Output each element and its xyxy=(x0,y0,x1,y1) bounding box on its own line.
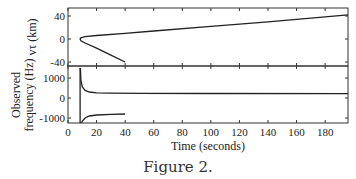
y-tick-label: 0 xyxy=(60,92,66,104)
x-tick-label: 80 xyxy=(177,126,189,138)
x-tick-label: 0 xyxy=(65,126,71,138)
y-tick-label: -40 xyxy=(50,56,65,68)
x-tick-label: 100 xyxy=(203,126,220,138)
panel-bottom: -100001000020406080100120140160180Time (… xyxy=(39,66,348,153)
series-line xyxy=(80,15,348,62)
figure-chart: -40040-100001000020406080100120140160180… xyxy=(0,0,356,179)
y-axis-label-bottom-line2: frequency (Hz) xyxy=(22,59,36,132)
y-tick-label: 1000 xyxy=(43,72,66,84)
x-tick-label: 180 xyxy=(317,126,334,138)
y-axis-label-bottom-line1: Observed xyxy=(9,72,23,118)
x-tick-label: 60 xyxy=(148,126,160,138)
x-tick-label: 40 xyxy=(120,126,132,138)
plot-frame xyxy=(68,8,348,66)
x-tick-label: 120 xyxy=(231,126,248,138)
x-tick-label: 160 xyxy=(288,126,305,138)
y-tick-label: -1000 xyxy=(39,112,65,124)
x-tick-label: 20 xyxy=(91,126,103,138)
panel-top: -40040 xyxy=(50,8,348,68)
figure-caption: Figure 2. xyxy=(0,158,356,176)
x-axis-label: Time (seconds) xyxy=(171,139,245,153)
y-tick-label: 0 xyxy=(60,33,66,45)
y-axis-label-top: vτ (km) xyxy=(25,18,39,55)
series-line xyxy=(80,68,348,94)
y-tick-label: 40 xyxy=(54,10,66,22)
x-tick-label: 140 xyxy=(260,126,277,138)
